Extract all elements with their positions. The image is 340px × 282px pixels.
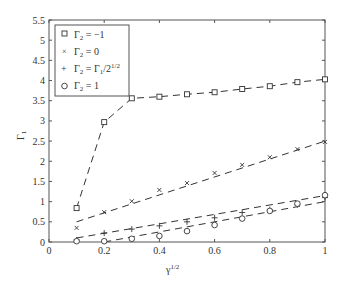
circle-marker	[74, 238, 80, 244]
square-marker	[74, 206, 79, 211]
y-tick-label: 0.5	[33, 216, 46, 227]
circle-marker	[322, 192, 328, 198]
plus-marker	[101, 230, 107, 236]
circle-marker	[295, 201, 301, 207]
square-marker	[102, 120, 107, 125]
y-tick-label: 2	[40, 156, 45, 167]
square-marker	[267, 84, 272, 89]
series-layer	[74, 77, 328, 244]
circle-marker	[157, 233, 163, 239]
x-tick-label: 0.2	[98, 245, 111, 256]
square-marker	[129, 96, 134, 101]
x-axis-label: γ1/2	[165, 263, 180, 275]
circle-marker	[239, 216, 245, 222]
y-axis-label: Γ1	[15, 130, 28, 140]
x-marker	[75, 226, 79, 230]
x-marker	[240, 163, 244, 167]
series-circle	[74, 192, 328, 244]
y-tick-label: 5	[40, 35, 45, 46]
series-plus	[74, 195, 328, 243]
legend: Γ2 = −1 × Γ2 = 0 + Γ2 = Γ1/21/2 Γ2 = 1	[55, 25, 129, 96]
y-tick-label: 3	[40, 115, 45, 126]
circle-marker	[267, 208, 273, 214]
x-tick-label: 0.6	[208, 245, 221, 256]
y-tick-label: 2.5	[33, 136, 46, 147]
x-marker	[213, 171, 217, 175]
plus-marker	[239, 210, 245, 216]
plus-marker	[212, 215, 218, 221]
plus-marker	[129, 226, 135, 232]
x-marker	[185, 181, 189, 185]
y-tick-label: 1	[40, 196, 45, 207]
x-tick-label: 0	[47, 245, 52, 256]
y-tick-label: 1.5	[33, 176, 46, 187]
series-square	[74, 77, 327, 211]
circle-marker	[129, 236, 135, 242]
x-tick-label: 0.4	[153, 245, 166, 256]
y-tick-label: 0	[40, 237, 45, 248]
x-marker	[268, 155, 272, 159]
x-tick-label: 1	[323, 245, 328, 256]
x-marker-icon: ×	[62, 47, 67, 56]
y-tick-label: 4	[40, 75, 45, 86]
circle-marker	[184, 228, 190, 234]
square-marker	[323, 77, 328, 82]
y-tick-label: 5.5	[33, 15, 46, 26]
square-marker	[295, 80, 300, 85]
square-marker	[157, 94, 162, 99]
square-marker	[185, 92, 190, 97]
circle-marker	[212, 222, 218, 228]
circle-marker	[101, 238, 107, 244]
y-tick-label: 3.5	[33, 95, 46, 106]
plus-marker-icon: +	[61, 63, 67, 74]
x-tick-label: 0.8	[264, 245, 277, 256]
square-marker	[240, 87, 245, 92]
y-tick-label: 4.5	[33, 55, 46, 66]
chart: 00.20.40.60.8100.511.522.533.544.555.5 Γ…	[0, 0, 340, 282]
x-marker	[157, 188, 161, 192]
square-marker	[212, 90, 217, 95]
x-marker	[130, 199, 134, 203]
